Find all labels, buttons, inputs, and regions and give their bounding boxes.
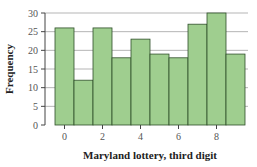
y-axis-title: Frequency <box>3 44 15 94</box>
y-tick-label: 0 <box>33 120 38 131</box>
bar-3 <box>112 58 131 125</box>
bar-4 <box>131 39 150 125</box>
x-tick-label: 4 <box>138 131 143 142</box>
y-tick-label: 20 <box>28 45 38 56</box>
histogram-chart: 051015202530 02468 Maryland lottery, thi… <box>0 0 257 167</box>
bar-1 <box>74 80 93 125</box>
y-tick-label: 30 <box>28 8 38 19</box>
x-tick-label: 8 <box>214 131 219 142</box>
y-tick-label: 25 <box>28 26 38 37</box>
bar-2 <box>93 28 112 125</box>
bar-7 <box>188 24 207 125</box>
bar-6 <box>169 58 188 125</box>
y-tick-label: 15 <box>28 64 38 75</box>
y-tick-label: 10 <box>28 82 38 93</box>
x-tick-label: 0 <box>62 131 67 142</box>
x-axis-ticks: 02468 <box>62 125 219 142</box>
bar-0 <box>55 28 74 125</box>
y-tick-label: 5 <box>33 101 38 112</box>
x-tick-label: 6 <box>176 131 181 142</box>
x-tick-label: 2 <box>100 131 105 142</box>
bar-9 <box>226 54 245 125</box>
x-axis-title: Maryland lottery, third digit <box>83 149 217 161</box>
bar-8 <box>207 13 226 125</box>
y-axis-ticks: 051015202530 <box>28 8 45 131</box>
bar-5 <box>150 54 169 125</box>
